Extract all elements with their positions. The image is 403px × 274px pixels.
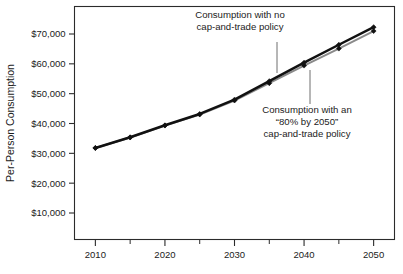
y-tick-label: $10,000 xyxy=(31,207,65,218)
y-axis-title: Per-Person Consumption xyxy=(4,64,16,182)
y-tick-label: $20,000 xyxy=(31,178,65,189)
x-tick-label: 2050 xyxy=(363,249,384,260)
y-tick-label: $40,000 xyxy=(31,118,65,129)
x-tick-label: 2040 xyxy=(293,249,314,260)
y-tick-label: $30,000 xyxy=(31,148,65,159)
y-tick-label: $70,000 xyxy=(31,28,65,39)
annotation-line: cap-and-trade policy xyxy=(264,128,351,139)
y-tick-label: $50,000 xyxy=(31,88,65,99)
x-tick-label: 2020 xyxy=(154,249,175,260)
chart-figure: Per-Person Consumption $10,000$20,000$30… xyxy=(0,0,403,274)
x-tick-label: 2030 xyxy=(224,249,245,260)
annotation-line: Consumption with no xyxy=(195,9,285,20)
annotation-line: “80% by 2050” xyxy=(276,116,338,127)
x-tick-label: 2010 xyxy=(85,249,106,260)
annotation-text: Consumption with nocap-and-trade policy xyxy=(195,9,285,32)
y-tick-label: $60,000 xyxy=(31,58,65,69)
annotation-line: cap-and-trade policy xyxy=(197,21,284,32)
line-chart: Per-Person Consumption $10,000$20,000$30… xyxy=(0,0,403,274)
annotation-line: Consumption with an xyxy=(262,104,352,115)
